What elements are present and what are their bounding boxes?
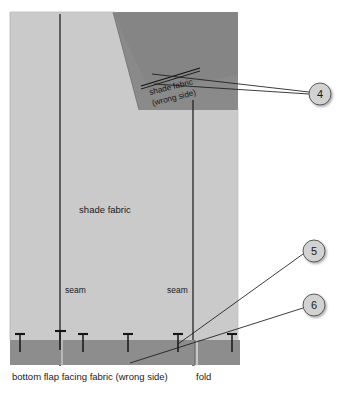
diagram-root: shade fabric (wrong side) bbox=[0, 0, 347, 394]
callout-number: 5 bbox=[311, 245, 317, 257]
bottom-flap-band-group bbox=[10, 340, 240, 365]
bottom-flap-band-texture bbox=[10, 340, 240, 365]
fold-caption: fold bbox=[196, 371, 211, 382]
shade-fabric-diagram: shade fabric (wrong side) bbox=[0, 0, 347, 394]
shade-fabric-main-label: shade fabric bbox=[79, 204, 131, 215]
callout-number: 6 bbox=[311, 299, 317, 311]
callout-5[interactable]: 5 bbox=[303, 240, 325, 262]
callout-number: 4 bbox=[317, 88, 323, 100]
seam-label-left: seam bbox=[65, 285, 86, 295]
callout-6[interactable]: 6 bbox=[303, 294, 325, 316]
bottom-flap-caption: bottom flap facing fabric (wrong side) bbox=[12, 371, 168, 382]
seam-label-right: seam bbox=[167, 285, 188, 295]
callout-4[interactable]: 4 bbox=[309, 83, 331, 105]
